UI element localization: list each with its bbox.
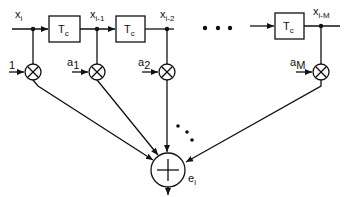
multiplier-1: [89, 64, 105, 80]
delay-label-1: Tc: [58, 23, 69, 38]
tap-label-M: xi-M: [313, 5, 330, 20]
ellipsis-dot: [203, 26, 207, 30]
coef-label-2: a2: [138, 56, 150, 71]
coef-label-0: 1: [9, 59, 15, 71]
transversal-filter-diagram: xi Tc Tc Tc xi-1 xi-2 xi-M 1 a1 a2 aM ei: [0, 0, 348, 197]
delay-label-M: Tc: [283, 20, 294, 35]
input-label: xi: [15, 8, 23, 23]
summer: [151, 153, 185, 187]
ellipsis-dot: [228, 26, 232, 30]
ellipsis-dot: [216, 26, 220, 30]
output-label: ei: [188, 172, 196, 187]
multiplier-M: [313, 64, 329, 80]
delay-label-2: Tc: [124, 23, 135, 38]
tap-label-2: xi-2: [160, 8, 175, 23]
coef-label-M: aM: [290, 56, 305, 71]
tap-label-1: xi-1: [90, 8, 105, 23]
multiplier-0: [25, 64, 41, 80]
coef-label-1: a1: [67, 56, 79, 71]
multiplier-2: [159, 64, 175, 80]
